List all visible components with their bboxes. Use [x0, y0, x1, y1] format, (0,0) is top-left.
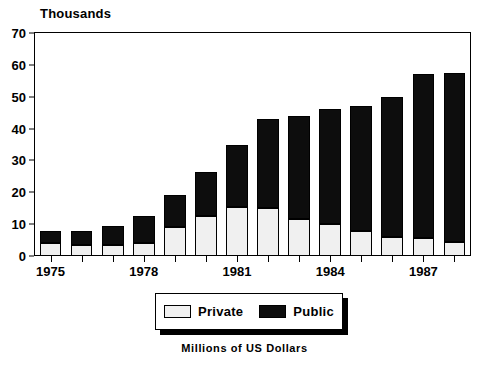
legend-label: Private	[198, 304, 243, 319]
bar-segment-public	[71, 231, 93, 245]
x-axis-tick-mark	[392, 256, 393, 262]
bar-segment-public	[381, 97, 403, 237]
bar-1984	[319, 109, 341, 256]
x-axis-tick-label: 1981	[222, 264, 251, 279]
bar-1982	[257, 119, 279, 256]
bar-series-group	[35, 33, 470, 256]
x-axis-tick-mark	[206, 256, 207, 262]
y-axis-tick-mark	[29, 33, 34, 34]
bar-segment-public	[164, 195, 186, 227]
bar-segment-private	[257, 208, 279, 256]
x-axis-tick-label: 1978	[129, 264, 158, 279]
bar-segment-private	[102, 245, 124, 256]
bar-1985	[350, 106, 372, 256]
bar-segment-private	[444, 242, 466, 256]
y-axis-unit-label: Thousands	[40, 6, 111, 21]
y-axis-tick-mark	[29, 64, 34, 65]
bar-1979	[164, 195, 186, 256]
bar-segment-private	[381, 237, 403, 256]
x-axis-tick-label: 1975	[36, 264, 65, 279]
y-axis-tick-label: 20	[12, 185, 26, 200]
bar-1976	[71, 231, 93, 256]
y-axis-tick-label: 60	[12, 57, 26, 72]
y-axis-tick-mark	[29, 192, 34, 193]
chart-legend: PrivatePublic	[155, 293, 343, 330]
bar-segment-private	[350, 231, 372, 256]
bar-1980	[195, 172, 217, 256]
bar-segment-private	[319, 224, 341, 256]
bar-segment-public	[195, 172, 217, 217]
bar-segment-public	[40, 231, 62, 244]
y-axis-tick-label: 50	[12, 89, 26, 104]
y-axis-tick-label: 40	[12, 121, 26, 136]
y-axis-tick-mark	[29, 96, 34, 97]
legend-entry-public: Public	[259, 304, 334, 319]
legend-label: Public	[293, 304, 334, 319]
bar-segment-public	[413, 74, 435, 238]
bar-segment-public	[226, 145, 248, 207]
bar-segment-public	[102, 226, 124, 245]
x-axis-tick-label: 1987	[409, 264, 438, 279]
bar-segment-private	[413, 238, 435, 256]
x-axis-tick-mark	[299, 256, 300, 262]
legend-swatch-public	[259, 305, 286, 318]
x-axis-tick-mark	[175, 256, 176, 262]
x-axis-tick-mark	[144, 256, 145, 262]
bar-segment-private	[164, 227, 186, 256]
bar-1977	[102, 226, 124, 256]
bar-segment-public	[133, 216, 155, 243]
bar-segment-private	[288, 219, 310, 256]
y-axis-tick-mark	[29, 224, 34, 225]
x-axis-tick-mark	[454, 256, 455, 262]
legend-swatch-private	[164, 305, 191, 318]
bar-chart-figure: Thousands 010203040506070 19751978198119…	[0, 0, 489, 366]
y-axis-tick-mark	[29, 128, 34, 129]
y-axis: 010203040506070	[0, 32, 34, 256]
bar-segment-public	[257, 119, 279, 208]
y-axis-tick-label: 10	[12, 217, 26, 232]
bar-1978	[133, 216, 155, 256]
x-axis-tick-mark	[51, 256, 52, 262]
x-axis-tick-mark	[361, 256, 362, 262]
x-axis-tick-mark	[423, 256, 424, 262]
bar-segment-public	[444, 73, 466, 242]
bar-1987	[413, 74, 435, 256]
bar-segment-private	[40, 243, 62, 256]
bar-segment-public	[319, 109, 341, 224]
bar-segment-public	[288, 116, 310, 220]
x-axis-tick-label: 1984	[316, 264, 345, 279]
bar-1981	[226, 145, 248, 257]
x-axis-tick-mark	[237, 256, 238, 262]
bar-segment-private	[71, 245, 93, 256]
bar-segment-public	[350, 106, 372, 230]
bar-1988	[444, 73, 466, 256]
bar-1983	[288, 116, 310, 256]
x-axis-tick-mark	[113, 256, 114, 262]
x-axis: 19751978198119841987	[34, 256, 471, 290]
bar-segment-private	[195, 216, 217, 256]
bar-1986	[381, 97, 403, 256]
x-axis-tick-mark	[268, 256, 269, 262]
bar-segment-private	[226, 207, 248, 256]
legend-entry-private: Private	[164, 304, 243, 319]
y-axis-tick-label: 0	[19, 249, 26, 264]
y-axis-tick-label: 30	[12, 153, 26, 168]
x-axis-tick-mark	[82, 256, 83, 262]
bar-1975	[40, 231, 62, 256]
chart-caption: Millions of US Dollars	[0, 342, 489, 354]
y-axis-tick-mark	[29, 160, 34, 161]
bar-segment-private	[133, 243, 155, 256]
y-axis-tick-label: 70	[12, 26, 26, 41]
x-axis-tick-mark	[330, 256, 331, 262]
